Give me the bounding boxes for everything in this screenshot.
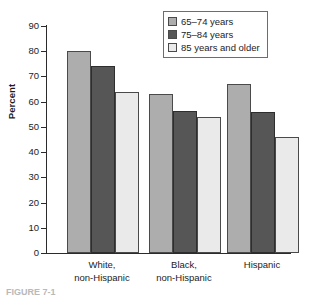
bar-g0-s2 xyxy=(115,92,139,253)
y-tick-label-90: 90 xyxy=(5,21,39,31)
y-tick-label-70: 70 xyxy=(5,71,39,81)
bar-g2-s0 xyxy=(227,84,251,253)
legend-swatch-icon-0 xyxy=(168,17,177,26)
bar-g2-s1 xyxy=(251,112,275,253)
bar-g0-s0 xyxy=(67,51,91,253)
legend-item-0: 65–74 years xyxy=(168,15,260,28)
y-tick-label-40: 40 xyxy=(5,147,39,157)
bar-g1-s1 xyxy=(173,111,197,254)
y-tick-label-60: 60 xyxy=(5,97,39,107)
chart-legend: 65–74 years 75–84 years 85 years and old… xyxy=(163,11,268,58)
y-tick-label-80: 80 xyxy=(5,46,39,56)
category-label-2: Hispanic xyxy=(208,259,316,272)
legend-item-1: 75–84 years xyxy=(168,28,260,41)
y-tick-80 xyxy=(41,51,46,52)
y-tick-label-0: 0 xyxy=(5,248,39,258)
y-tick-label-30: 30 xyxy=(5,172,39,182)
y-tick-30 xyxy=(41,177,46,178)
legend-label-2: 85 years and older xyxy=(181,43,260,53)
legend-label-1: 75–84 years xyxy=(181,30,233,40)
bar-g1-s0 xyxy=(149,94,173,253)
bar-g2-s2 xyxy=(275,137,299,253)
y-tick-label-50: 50 xyxy=(5,122,39,132)
y-tick-20 xyxy=(41,203,46,204)
y-tick-70 xyxy=(41,76,46,77)
x-axis-line xyxy=(46,253,291,254)
y-tick-90 xyxy=(41,26,46,27)
bar-g1-s2 xyxy=(197,117,221,253)
y-tick-label-10: 10 xyxy=(5,223,39,233)
y-tick-10 xyxy=(41,228,46,229)
y-tick-40 xyxy=(41,152,46,153)
y-tick-50 xyxy=(41,127,46,128)
legend-swatch-icon-1 xyxy=(168,30,177,39)
bar-g0-s1 xyxy=(91,66,115,253)
legend-label-0: 65–74 years xyxy=(181,17,233,27)
legend-swatch-icon-2 xyxy=(168,43,177,52)
y-tick-label-20: 20 xyxy=(5,198,39,208)
figure-caption: FIGURE 7-1 xyxy=(6,287,56,295)
y-tick-0 xyxy=(41,253,46,254)
y-tick-60 xyxy=(41,102,46,103)
legend-item-2: 85 years and older xyxy=(168,41,260,54)
